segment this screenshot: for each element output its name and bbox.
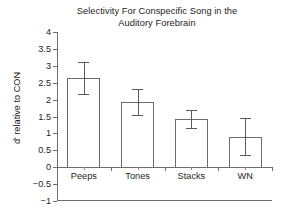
y-tick-label: −1 (41, 196, 51, 206)
error-bar-cap-upper (240, 118, 251, 119)
x-tick-mark-minor (138, 167, 139, 170)
y-tick-label: 0 (46, 162, 51, 172)
chart-title-line-2: Auditory Forebrain (38, 18, 276, 30)
y-tick-label: 1.5 (38, 112, 51, 122)
y-tick-label: 2 (46, 95, 51, 105)
y-tick-mark (53, 49, 57, 50)
x-category-label: WN (237, 171, 252, 181)
y-tick-mark (53, 117, 57, 118)
chart-title-line-1: Selectivity For Conspecific Song in the (38, 6, 276, 18)
error-bar-stem (245, 118, 246, 155)
y-tick-mark (53, 66, 57, 67)
x-tick-mark-minor (191, 167, 192, 170)
y-tick-mark (53, 133, 57, 134)
error-bar-cap-lower (132, 115, 143, 116)
x-tick-mark (218, 167, 219, 171)
x-tick-mark (57, 167, 58, 171)
y-tick-label: −0.5 (33, 179, 51, 189)
error-bar-cap-lower (78, 94, 89, 95)
axis-bottom-line (57, 200, 272, 201)
x-tick-mark-minor (84, 167, 85, 170)
y-axis-title: d' relative to CON (12, 43, 22, 173)
y-tick-mark (53, 32, 57, 33)
y-tick-label: 1 (46, 128, 51, 138)
y-tick-label: 3.5 (38, 44, 51, 54)
error-bar-stem (191, 110, 192, 128)
plot-area: 43.532.521.510.50−0.5−1 PeepsTonesStacks… (57, 32, 272, 201)
x-category-label: Stacks (178, 171, 206, 181)
error-bar-stem (138, 89, 139, 115)
error-bar-cap-upper (132, 89, 143, 90)
error-bar-cap-upper (186, 110, 197, 111)
y-tick-mark (53, 150, 57, 151)
y-tick-mark (53, 184, 57, 185)
x-tick-mark (111, 167, 112, 171)
y-tick-mark (53, 201, 57, 202)
chart-title: Selectivity For Conspecific Song in the … (38, 6, 276, 29)
chart-figure: Selectivity For Conspecific Song in the … (0, 0, 281, 217)
error-bar-cap-upper (78, 62, 89, 63)
y-axis-line (57, 32, 58, 201)
error-bar-cap-lower (240, 155, 251, 156)
y-tick-label: 3 (46, 61, 51, 71)
x-tick-mark-minor (245, 167, 246, 170)
x-category-label: Peeps (71, 171, 97, 181)
x-tick-mark (272, 167, 273, 171)
x-category-label: Tones (125, 171, 150, 181)
error-bar-stem (84, 62, 85, 94)
y-tick-label: 0.5 (38, 145, 51, 155)
y-tick-mark (53, 83, 57, 84)
y-tick-label: 2.5 (38, 78, 51, 88)
error-bar-cap-lower (186, 128, 197, 129)
y-tick-mark (53, 100, 57, 101)
y-tick-label: 4 (46, 27, 51, 37)
x-tick-mark (165, 167, 166, 171)
